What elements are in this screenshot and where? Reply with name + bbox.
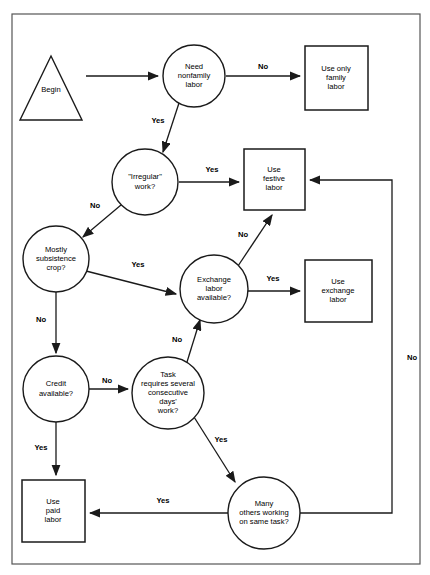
edge-line: [238, 215, 272, 266]
edge-subsistence-no-credit: No: [36, 292, 56, 353]
edge-exchange-no-festive: No: [238, 215, 272, 266]
edge-label-credit-no-task: No: [102, 376, 112, 385]
edge-line: [300, 180, 392, 513]
node-need-nonfamily-labor[interactable]: Neednonfamilylabor: [163, 45, 225, 107]
edge-label-many-others-yes-paid: Yes: [156, 496, 169, 505]
edge-line: [187, 320, 200, 362]
edge-label-task-no-exchange: No: [172, 335, 182, 344]
edge-need-no-family: No: [226, 62, 300, 76]
edge-label-credit-yes-paid: Yes: [34, 443, 47, 452]
node-exchange-labor-available[interactable]: Exchangelaboravailable?: [180, 255, 248, 323]
edge-label-irregular-no-subsistence: No: [90, 201, 100, 210]
edge-label-subsistence-no-credit: No: [36, 315, 46, 324]
edge-line: [86, 271, 176, 294]
edge-many-others-yes-paid: Yes: [90, 496, 228, 513]
node-use-paid-labor[interactable]: Usepaidlabor: [22, 480, 85, 542]
edge-irregular-no-subsistence: No: [83, 201, 121, 237]
node-irregular-work[interactable]: "Irregular"work?: [112, 149, 178, 215]
edge-label-exchange-yes-use-exchange: Yes: [266, 274, 279, 283]
flowchart-canvas: NoYesYesNoYesNoYesNoNoYesNoYesYesNo Begi…: [0, 0, 430, 575]
node-task-requires-days[interactable]: Taskrequires severalconsecutivedays'work…: [132, 357, 204, 429]
edge-line: [194, 417, 235, 482]
node-label-begin: Begin: [41, 85, 60, 94]
node-label-use-paid-labor: Usepaidlabor: [45, 497, 62, 524]
flowchart-svg: NoYesYesNoYesNoYesNoNoYesNoYesYesNo Begi…: [0, 0, 430, 575]
edge-label-task-yes-many-others: Yes: [214, 435, 227, 444]
node-credit-available[interactable]: Creditavailable?: [23, 356, 89, 422]
node-many-others-working[interactable]: Manyothers workingon same task?: [228, 477, 300, 549]
edge-subsistence-yes-exchange: Yes: [86, 260, 176, 294]
edge-task-yes-many-others: Yes: [194, 417, 235, 482]
edge-label-subsistence-yes-exchange: Yes: [131, 260, 144, 269]
node-mostly-subsistence-crop[interactable]: Mostlysubsistencecrop?: [23, 226, 89, 292]
edge-label-exchange-no-festive: No: [238, 230, 248, 239]
edge-label-many-others-no-festive: No: [407, 353, 417, 362]
edge-need-yes-irregular: Yes: [151, 103, 179, 152]
node-use-festive-labor[interactable]: Usefestivelabor: [244, 149, 305, 210]
node-use-exchange-labor[interactable]: Useexchangelabor: [305, 260, 372, 322]
edge-line: [163, 103, 179, 152]
edge-exchange-yes-use-exchange: Yes: [248, 274, 300, 291]
nodes-layer: BeginNeednonfamilylaborUse onlyfamilylab…: [20, 45, 372, 549]
edge-irregular-yes-festive: Yes: [179, 165, 239, 182]
edge-task-no-exchange: No: [172, 320, 200, 362]
edge-label-irregular-yes-festive: Yes: [205, 165, 218, 174]
node-begin[interactable]: Begin: [20, 56, 82, 120]
edge-label-need-no-family: No: [258, 62, 268, 71]
edge-credit-no-task: No: [89, 376, 128, 389]
node-use-only-family-labor[interactable]: Use onlyfamilylabor: [305, 46, 368, 110]
edge-label-need-yes-irregular: Yes: [151, 116, 164, 125]
edge-line: [83, 205, 121, 237]
edge-credit-yes-paid: Yes: [34, 422, 56, 475]
edge-many-others-no-festive: No: [300, 180, 417, 513]
